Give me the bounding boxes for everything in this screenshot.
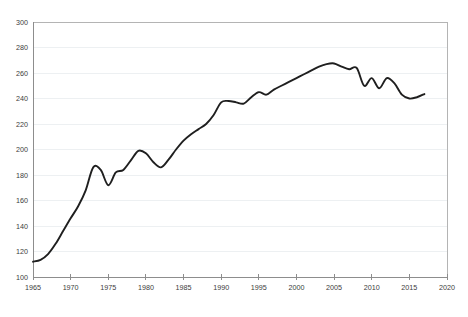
y-tick-label: 180 [16, 171, 28, 180]
x-tick-label: 1985 [176, 283, 192, 292]
y-tick-label: 140 [16, 222, 28, 231]
x-tick-label: 1975 [100, 283, 116, 292]
y-tick-label: 280 [16, 43, 28, 52]
y-tick-label: 240 [16, 94, 28, 103]
y-tick-label: 160 [16, 196, 28, 205]
y-axis-tick-labels: 100120140160180200220240260280300 [16, 18, 28, 282]
y-tick-label: 300 [16, 18, 28, 27]
y-tick-label: 260 [16, 69, 28, 78]
x-tick-label: 1965 [25, 283, 41, 292]
y-tick-label: 120 [16, 247, 28, 256]
chart-canvas: 100120140160180200220240260280300 196519… [0, 0, 468, 317]
y-tick-label: 100 [16, 273, 28, 282]
line-chart: 100120140160180200220240260280300 196519… [0, 0, 468, 317]
x-tick-label: 2015 [401, 283, 417, 292]
x-tick-label: 1995 [251, 283, 267, 292]
x-tick-label: 2020 [439, 283, 455, 292]
x-tick-label: 1980 [138, 283, 154, 292]
y-tick-label: 220 [16, 120, 28, 129]
y-tick-label: 200 [16, 145, 28, 154]
x-tick-label: 2010 [364, 283, 380, 292]
x-axis-tick-labels: 1965197019751980198519901995200020052010… [25, 283, 455, 292]
x-tick-label: 2005 [326, 283, 342, 292]
x-tick-label: 2000 [288, 283, 304, 292]
x-tick-label: 1990 [213, 283, 229, 292]
x-tick-label: 1970 [63, 283, 79, 292]
